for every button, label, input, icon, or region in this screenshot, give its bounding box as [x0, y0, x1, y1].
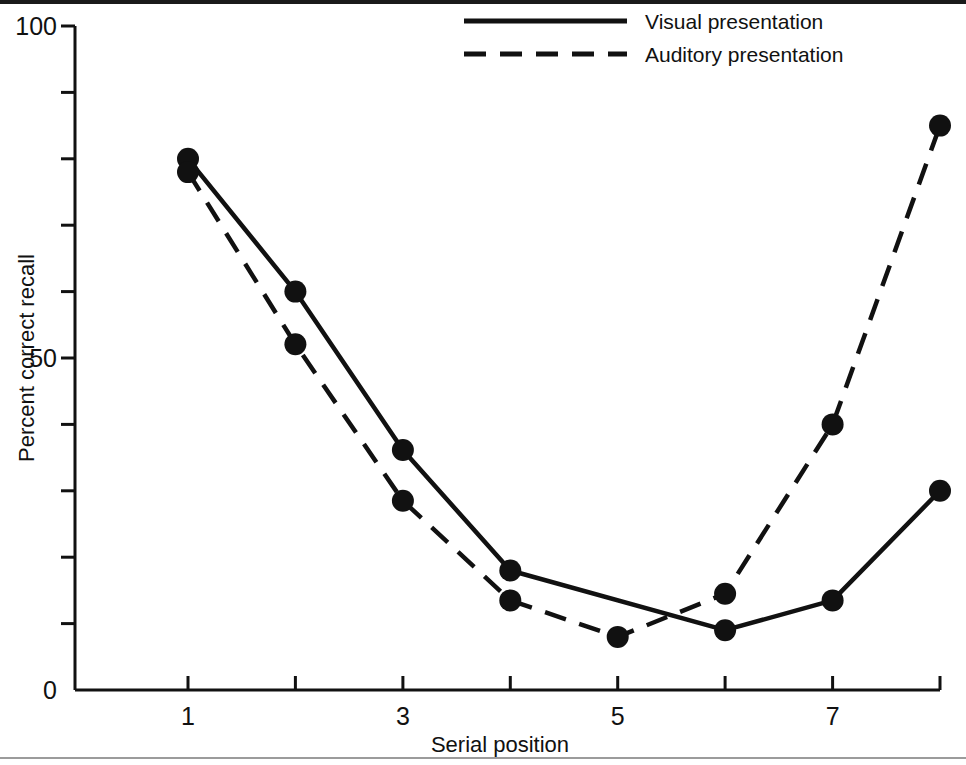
x-axis: [75, 676, 940, 690]
auditory-point-2: [284, 333, 306, 355]
auditory-point-4: [499, 589, 521, 611]
legend-label-visual: Visual presentation: [645, 10, 823, 33]
x-tick-label-7: 7: [826, 702, 840, 730]
series-visual-presentation: [177, 148, 951, 641]
x-tick-label-1: 1: [181, 702, 195, 730]
auditory-line: [188, 126, 940, 637]
figure-container: 100 50 0 1 3 5 7 Percent correct recall …: [0, 0, 966, 765]
x-tick-label-3: 3: [396, 702, 410, 730]
series-auditory-presentation: [177, 115, 951, 648]
auditory-point-3: [392, 490, 414, 512]
y-tick-label-0: 0: [43, 676, 57, 704]
chart-legend: Visual presentation Auditory presentatio…: [464, 10, 843, 66]
visual-point-6: [714, 619, 736, 641]
legend-entry-visual: Visual presentation: [464, 10, 823, 33]
auditory-point-5: [607, 626, 629, 648]
auditory-point-1: [177, 161, 199, 183]
y-axis: [61, 26, 75, 690]
x-tick-label-5: 5: [611, 702, 625, 730]
auditory-point-6: [714, 583, 736, 605]
legend-entry-auditory: Auditory presentation: [464, 43, 843, 66]
x-axis-title: Serial position: [431, 732, 569, 757]
visual-point-7: [822, 589, 844, 611]
y-axis-title: Percent correct recall: [14, 254, 39, 462]
auditory-point-7: [822, 413, 844, 435]
serial-position-line-chart: 100 50 0 1 3 5 7 Percent correct recall …: [0, 0, 966, 765]
visual-line: [188, 159, 940, 630]
auditory-point-8: [929, 115, 951, 137]
visual-point-3: [392, 439, 414, 461]
bottom-divider-rule: [0, 757, 966, 759]
visual-point-8: [929, 480, 951, 502]
visual-point-4: [499, 560, 521, 582]
visual-point-2: [284, 281, 306, 303]
legend-label-auditory: Auditory presentation: [645, 43, 843, 66]
y-tick-label-100: 100: [15, 12, 57, 40]
